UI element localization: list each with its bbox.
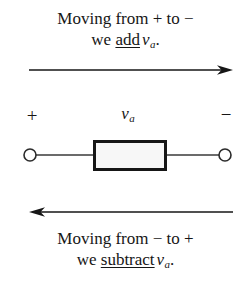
arrow-left-to-right — [0, 58, 251, 84]
caption-top-line2: we addva. — [0, 29, 251, 55]
caption-bottom: Moving from − to + we subtractva. — [0, 228, 251, 275]
caption-bottom-line2-variable: v — [157, 250, 165, 269]
caption-bottom-line1: Moving from − to + — [0, 228, 251, 249]
caption-top-line2-variable: v — [142, 30, 150, 49]
caption-top: Moving from + to − we addva. — [0, 8, 251, 55]
voltage-sign-convention-figure: Moving from + to − we addva. + − va Movi… — [0, 0, 251, 285]
caption-top-line1: Moving from + to − — [0, 8, 251, 29]
left-terminal-node — [24, 149, 36, 161]
arrow-right-to-left — [0, 200, 251, 226]
caption-bottom-line2: we subtractva. — [0, 249, 251, 275]
caption-bottom-line2-prefix: we — [77, 250, 101, 269]
circuit-element-diagram — [0, 98, 251, 188]
caption-top-line2-suffix: . — [155, 30, 159, 49]
caption-top-line2-emphasis: add — [115, 30, 140, 49]
circuit-element-box — [95, 142, 166, 170]
right-terminal-node — [219, 149, 231, 161]
caption-top-line2-prefix: we — [91, 30, 115, 49]
caption-bottom-line2-suffix: . — [170, 250, 174, 269]
caption-bottom-line2-emphasis: subtract — [101, 250, 155, 269]
